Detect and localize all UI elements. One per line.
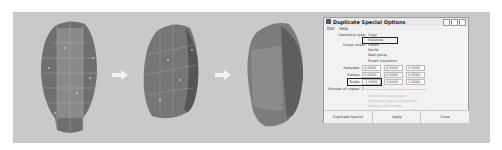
checkbox-smart-transform[interactable]: Smart transform (368, 59, 397, 63)
minimize-button[interactable] (443, 19, 450, 26)
menu-help[interactable]: Help (339, 26, 348, 31)
title-bar[interactable]: Duplicate Special Options (324, 18, 468, 26)
app-icon (326, 19, 331, 24)
rotate-z-field[interactable]: 0.0000 (406, 72, 425, 78)
head-mesh-original (35, 18, 105, 138)
duplicate-special-button[interactable]: Duplicate Special (324, 110, 372, 123)
translate-x-field[interactable]: 0.0000 (362, 65, 381, 71)
copies-slider[interactable] (366, 89, 426, 90)
close-button[interactable]: Close (420, 110, 469, 123)
checkbox-duplicate-input-connections[interactable]: Duplicate input connections (368, 99, 417, 103)
group-under-label: Group under: (336, 43, 366, 47)
close-window-button[interactable] (459, 19, 466, 26)
dialog-title: Duplicate Special Options (333, 18, 406, 26)
apply-button[interactable]: Apply (372, 110, 421, 123)
translate-y-field[interactable]: 0.0000 (384, 65, 403, 71)
rotate-label: Rotate: (328, 73, 360, 77)
scale-y-field[interactable]: 1.0000 (384, 79, 403, 85)
translate-z-field[interactable]: 0.0000 (406, 65, 425, 71)
arrow-right-icon (112, 71, 128, 79)
head-mesh-smoothed (243, 20, 308, 130)
scrollbar[interactable] (464, 33, 467, 107)
number-of-copies-value[interactable]: 1 (362, 87, 364, 91)
rotate-y-field[interactable]: 0.0000 (384, 72, 403, 78)
number-of-copies-label: Number of copies: (326, 87, 360, 91)
checkbox-duplicate-input-graph[interactable]: Duplicate input graph (368, 94, 406, 98)
arrow-right-icon (215, 71, 231, 79)
radio-world[interactable]: World (368, 48, 378, 52)
radio-new-group[interactable]: New group (368, 53, 387, 57)
scale-z-field[interactable]: 1.0000 (406, 79, 425, 85)
menu-edit[interactable]: Edit (327, 26, 335, 31)
menu-bar: Edit Help (324, 26, 468, 32)
highlight-scale (347, 78, 382, 86)
translate-label: Translate: (328, 66, 360, 70)
head-mesh-mirrored (140, 20, 205, 125)
duplicate-special-options-dialog: Duplicate Special Options Edit Help Geom… (323, 17, 469, 123)
maximize-button[interactable] (451, 19, 458, 26)
radio-parent[interactable]: Parent (368, 43, 379, 47)
checkbox-instance-leaf-nodes[interactable]: Instance leaf nodes (368, 104, 402, 108)
